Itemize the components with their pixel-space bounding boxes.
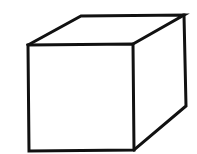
cube-right-face (134, 15, 186, 150)
cube-front-face (28, 44, 134, 151)
cube-top-face (28, 15, 184, 45)
cube-diagram (0, 0, 197, 154)
cube-drawing (0, 0, 197, 154)
